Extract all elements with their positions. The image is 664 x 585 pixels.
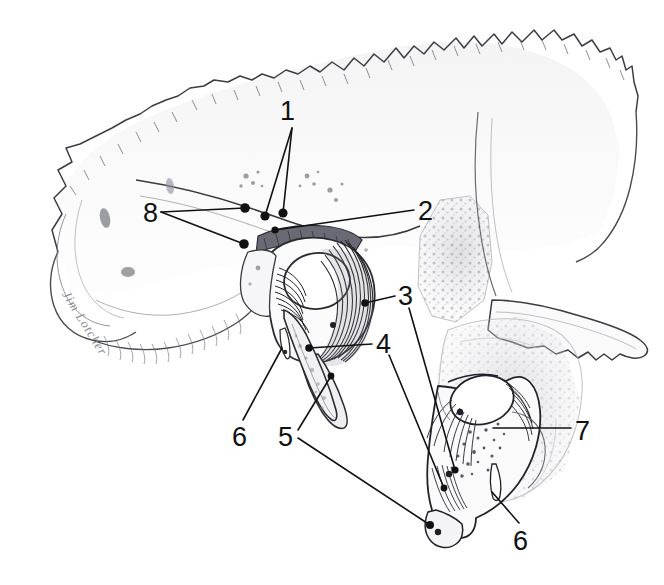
label-1: 1 <box>280 98 295 125</box>
leader-dot <box>451 466 458 473</box>
leader-dot <box>271 226 278 233</box>
label-5: 5 <box>278 424 293 451</box>
label-6-upper: 6 <box>232 424 247 451</box>
leader-5-b <box>298 438 430 525</box>
leader-dot <box>240 203 250 213</box>
label-2: 2 <box>418 198 433 225</box>
leader-dot <box>361 299 369 307</box>
leader-dot <box>328 373 335 380</box>
leader-6a <box>243 348 282 420</box>
label-3: 3 <box>398 283 413 310</box>
leader-dot <box>305 344 313 352</box>
leader-dot <box>441 485 448 492</box>
leader-dot <box>278 208 287 217</box>
leader-dot <box>239 239 249 249</box>
label-6-lower: 6 <box>513 528 528 555</box>
anatomical-figure: 1 2 3 4 5 6 6 7 8 Jim Lotcher <box>0 0 664 585</box>
label-7: 7 <box>575 418 590 445</box>
label-8: 8 <box>143 200 158 227</box>
tympanic-ring-structure <box>241 225 375 428</box>
label-4: 4 <box>376 331 391 358</box>
anatomy-illustration <box>0 0 664 585</box>
leader-dot <box>426 521 434 529</box>
leader-dot <box>260 211 269 220</box>
